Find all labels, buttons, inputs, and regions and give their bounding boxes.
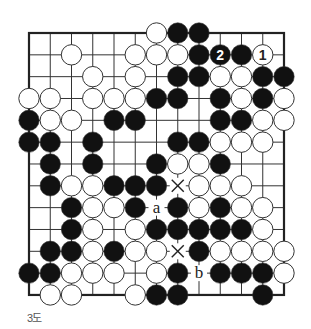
white-stone [83,219,103,239]
black-stone [231,110,251,130]
black-stone: 2 [210,45,230,65]
black-stone [61,241,81,261]
black-stone [168,263,188,283]
white-stone [253,219,273,239]
black-stone [253,66,273,86]
white-stone [83,88,103,108]
black-stone [19,263,39,283]
go-board-diagram: 21 ab [0,0,311,329]
white-stone [125,241,145,261]
white-stone [253,110,273,130]
black-stone [104,176,124,196]
white-stone [231,132,251,152]
white-stone [125,88,145,108]
black-stone [104,241,124,261]
black-stone [146,154,166,174]
black-stone [168,197,188,217]
white-stone [40,285,60,305]
black-stone [61,219,81,239]
white-stone: 1 [253,45,273,65]
move-number-label: 2 [216,47,224,63]
white-stone [61,263,81,283]
black-stone [189,66,209,86]
white-stone [83,263,103,283]
white-stone [40,110,60,130]
black-stone [19,132,39,152]
white-stone [274,88,294,108]
white-stone [61,176,81,196]
black-stone [168,66,188,86]
white-stone [189,197,209,217]
white-stone [253,132,273,152]
white-stone [83,197,103,217]
white-stone [231,241,251,261]
black-stone [125,176,145,196]
black-stone [168,132,188,152]
white-stone [83,66,103,86]
white-stone [274,110,294,130]
black-stone [61,197,81,217]
white-stone [231,88,251,108]
black-stone [189,23,209,43]
black-stone [210,219,230,239]
black-stone [168,219,188,239]
white-stone [125,66,145,86]
black-stone [168,23,188,43]
white-stone [210,241,230,261]
black-stone [125,197,145,217]
move-number-label: 1 [259,47,267,63]
black-stone [40,176,60,196]
black-stone [189,132,209,152]
black-stone [146,176,166,196]
black-stone [83,154,103,174]
black-stone [231,263,251,283]
white-stone [210,176,230,196]
white-stone [210,66,230,86]
white-stone [210,132,230,152]
black-stone [231,45,251,65]
black-stone [210,154,230,174]
white-stone [231,176,251,196]
white-stone [168,45,188,65]
white-stone [146,241,166,261]
black-stone [40,132,60,152]
white-stone [40,88,60,108]
black-stone [210,88,230,108]
black-stone [19,110,39,130]
white-stone [104,197,124,217]
black-stone [104,110,124,130]
black-stone [210,197,230,217]
black-stone [210,263,230,283]
black-stone [231,219,251,239]
black-stone [253,88,273,108]
white-stone [61,285,81,305]
white-stone [146,23,166,43]
letter-mark-a: a [153,198,161,217]
diagram-caption: 3도 [27,309,41,325]
black-stone [146,88,166,108]
white-stone [125,45,145,65]
white-stone [189,176,209,196]
white-stone [61,110,81,130]
white-stone [146,263,166,283]
white-stone [125,285,145,305]
black-stone [210,110,230,130]
black-stone [40,154,60,174]
black-stone [274,66,294,86]
white-stone [125,219,145,239]
white-stone [253,241,273,261]
black-stone [189,241,209,261]
letter-mark-b: b [195,263,204,282]
white-stone [83,241,103,261]
black-stone [83,132,103,152]
black-stone [40,241,60,261]
white-stone [61,45,81,65]
white-stone [231,197,251,217]
white-stone [146,45,166,65]
black-stone [253,285,273,305]
white-stone [104,88,124,108]
white-stone [274,241,294,261]
white-stone [83,176,103,196]
white-stone [274,263,294,283]
white-stone [253,197,273,217]
